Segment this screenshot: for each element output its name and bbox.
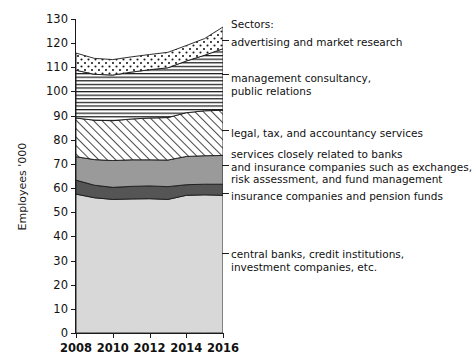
- x-tick-mark: [223, 333, 224, 338]
- leader-line: [222, 193, 229, 194]
- y-tick-label: 80: [53, 133, 68, 147]
- y-tick-mark: [71, 164, 76, 165]
- y-tick-mark: [71, 236, 76, 237]
- leader-line: [222, 253, 229, 254]
- legend-line: services closely related to banks: [231, 148, 472, 161]
- y-tick-label: 30: [53, 254, 68, 268]
- x-tick-label: 2008: [60, 341, 92, 355]
- plot-area: 0102030405060708090100110120130 20082010…: [75, 19, 223, 334]
- legend-line: central banks, credit institutions,: [231, 248, 404, 261]
- x-tick-label: 2014: [170, 341, 202, 355]
- y-tick-mark: [71, 19, 76, 20]
- legend-line: management consultancy,: [231, 72, 371, 85]
- x-tick-mark: [150, 333, 151, 338]
- leader-line: [222, 74, 229, 75]
- y-tick-label: 100: [46, 84, 68, 98]
- legend-entry-legal-tax: legal, tax, and accountancy services: [231, 127, 423, 140]
- leader-line: [222, 130, 229, 131]
- y-tick-mark: [71, 140, 76, 141]
- y-tick-label: 50: [53, 205, 68, 219]
- y-tick-label: 40: [53, 229, 68, 243]
- x-tick-mark: [186, 333, 187, 338]
- y-tick-label: 60: [53, 181, 68, 195]
- y-tick-mark: [71, 261, 76, 262]
- legend-entry-advertising: advertising and market research: [231, 36, 402, 49]
- y-tick-mark: [71, 43, 76, 44]
- x-tick-label: 2010: [97, 341, 129, 355]
- y-axis-title: Employees '000: [16, 117, 29, 257]
- y-tick-mark: [71, 212, 76, 213]
- legend-line: risk assessment, and fund management: [231, 173, 472, 186]
- legend-entry-central-banks: central banks, credit institutions,inves…: [231, 248, 404, 273]
- y-tick-mark: [71, 285, 76, 286]
- x-tick-mark: [113, 333, 114, 338]
- legend-entry-services-related-banks: services closely related to banksand ins…: [231, 148, 472, 186]
- stacked-area-svg: [76, 19, 223, 333]
- legend-line: public relations: [231, 85, 371, 98]
- y-tick-label: 0: [61, 326, 68, 340]
- legend: Sectors:advertising and market researchm…: [231, 0, 455, 364]
- y-tick-mark: [71, 91, 76, 92]
- y-tick-label: 70: [53, 157, 68, 171]
- y-tick-label: 90: [53, 109, 68, 123]
- legend-line: investment companies, etc.: [231, 261, 404, 274]
- leader-line: [222, 40, 229, 41]
- legend-line: legal, tax, and accountancy services: [231, 127, 423, 140]
- legend-line: and insurance companies such as exchange…: [231, 161, 472, 174]
- y-tick-mark: [71, 309, 76, 310]
- y-tick-label: 120: [46, 36, 68, 50]
- y-tick-mark: [71, 116, 76, 117]
- legend-line: Sectors:: [231, 18, 274, 31]
- y-tick-mark: [71, 188, 76, 189]
- legend-line: advertising and market research: [231, 36, 402, 49]
- y-tick-label: 130: [46, 12, 68, 26]
- leader-line: [222, 165, 229, 166]
- y-tick-label: 10: [53, 302, 68, 316]
- y-tick-label: 20: [53, 278, 68, 292]
- x-tick-label: 2012: [133, 341, 165, 355]
- legend-entry-management-consultancy: management consultancy,public relations: [231, 72, 371, 97]
- y-tick-mark: [71, 67, 76, 68]
- area-band-0: [76, 194, 223, 333]
- y-tick-label: 110: [46, 60, 68, 74]
- legend-line: insurance companies and pension funds: [231, 190, 443, 203]
- x-tick-mark: [76, 333, 77, 338]
- legend-title: Sectors:: [231, 18, 274, 31]
- legend-entry-insurance-pension: insurance companies and pension funds: [231, 190, 443, 203]
